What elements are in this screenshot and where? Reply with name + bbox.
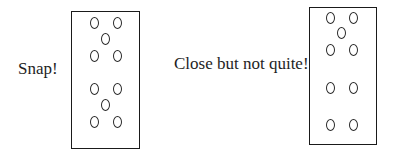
close-but-not-quite-label: Close but not quite! [174, 54, 309, 74]
ring-icon [113, 116, 122, 128]
ring-icon [90, 116, 99, 128]
ring-icon [349, 12, 358, 24]
ring-icon [326, 44, 335, 56]
ring-icon [349, 82, 358, 94]
ring-icon [90, 50, 99, 62]
ring-icon [337, 27, 346, 39]
ring-icon [349, 119, 358, 131]
ring-icon [349, 44, 358, 56]
ring-icon [113, 50, 122, 62]
ring-icon [90, 17, 99, 29]
ring-icon [90, 83, 99, 95]
ring-icon [113, 17, 122, 29]
ring-icon [326, 119, 335, 131]
ring-icon [101, 99, 110, 111]
snap-panel [71, 11, 140, 149]
ring-icon [326, 12, 335, 24]
snap-label: Snap! [18, 59, 58, 79]
ring-icon [113, 83, 122, 95]
ring-icon [101, 33, 110, 45]
ring-icon [326, 82, 335, 94]
